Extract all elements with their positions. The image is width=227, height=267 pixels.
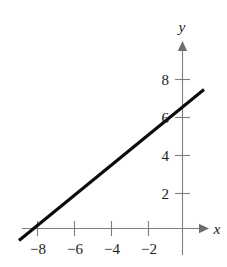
y-tick-label-3: 8 <box>162 72 170 88</box>
y-tick-label-1: 4 <box>162 148 170 164</box>
y-tick-label-2: 6 <box>162 110 170 126</box>
y-tick-label-0: 2 <box>162 186 170 202</box>
y-axis-group <box>178 41 187 255</box>
x-axis-label: x <box>213 220 221 237</box>
x-axis-arrow-icon <box>199 224 209 233</box>
x-tick-label-1: −6 <box>67 241 83 257</box>
y-axis-arrow-icon <box>178 41 187 51</box>
plotted-line <box>19 90 204 241</box>
y-axis-label: y <box>177 18 186 35</box>
graph-figure: −8 −6 −4 −2 2 4 6 8 x y <box>0 0 227 267</box>
x-tick-label-2: −4 <box>104 241 120 257</box>
x-tick-labels: −8 −6 −4 −2 <box>30 241 157 257</box>
x-tick-label-0: −8 <box>30 241 46 257</box>
y-tick-labels: 2 4 6 8 <box>162 72 170 202</box>
coordinate-plane: −8 −6 −4 −2 2 4 6 8 x y <box>0 0 227 267</box>
x-axis-group <box>22 224 209 233</box>
x-tick-label-3: −2 <box>141 241 157 257</box>
